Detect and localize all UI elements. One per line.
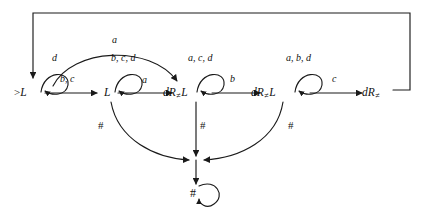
diagram-vector-layer	[0, 0, 432, 218]
state-node-s4[interactable]: dR≠	[362, 87, 380, 100]
state-node-s3[interactable]: dR≠L	[251, 87, 276, 100]
self-loop-label-s0: d	[52, 53, 57, 63]
self-loop-label-s2: a, c, d	[188, 53, 212, 63]
state-node-s2[interactable]: dR≠L	[163, 87, 188, 100]
edge-s1-to-sink	[111, 102, 189, 160]
self-loop-s1	[115, 75, 142, 95]
edge-label-s0-s1: b, c	[60, 74, 74, 84]
edge-label-s3-sink: #	[288, 120, 294, 131]
self-loop-label-s1: b, c, d	[111, 53, 135, 63]
state-label-s4-base: dR	[362, 86, 375, 98]
state-label-s3-suffix: L	[269, 86, 275, 98]
self-loop-s3	[295, 75, 322, 95]
edge-label-s1-sink: #	[98, 120, 104, 131]
edge-label-s3-s4: c	[332, 74, 336, 84]
state-label-s4-subscript: ≠	[375, 91, 380, 100]
edge-s3-to-sink	[204, 102, 283, 160]
self-loop-sink	[199, 184, 219, 206]
edge-label-s2-sink: #	[200, 120, 206, 131]
state-node-s1[interactable]: L	[104, 87, 110, 99]
state-label-s3-base: dR	[251, 86, 264, 98]
self-loop-label-s3: a, b, d	[286, 53, 311, 63]
self-loop-s2	[197, 75, 224, 95]
edge-label-s0-s2: a	[112, 35, 117, 45]
state-node-sink[interactable]: #	[190, 187, 196, 199]
automaton-diagram: >L L dR≠L dR≠L dR≠ # d b, c, d a, c, d a…	[0, 0, 432, 218]
edge-label-s2-s3: b	[230, 74, 235, 84]
edge-s4-to-s0-feedback	[33, 13, 410, 90]
state-label-s2-base: dR	[163, 86, 176, 98]
state-node-s0[interactable]: >L	[14, 87, 27, 99]
edge-label-s1-s2: a	[142, 75, 147, 85]
state-label-s2-suffix: L	[181, 86, 187, 98]
state-label-sink: #	[190, 186, 196, 200]
state-label-s1: L	[104, 86, 110, 98]
state-label-s0: L	[20, 86, 26, 98]
